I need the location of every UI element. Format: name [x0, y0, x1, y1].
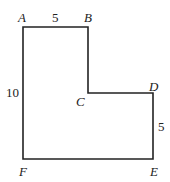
vertex-label-e: E: [149, 164, 158, 179]
l-shape-outline: [23, 27, 153, 159]
vertex-label-c: C: [76, 94, 85, 109]
vertex-label-f: F: [18, 164, 28, 179]
l-shape-diagram: A B C D E F 5 10 5: [0, 0, 170, 182]
vertex-label-d: D: [148, 79, 159, 94]
vertex-label-b: B: [84, 10, 92, 25]
vertex-label-a: A: [17, 10, 26, 25]
side-label-ab: 5: [52, 10, 59, 25]
side-label-af: 10: [6, 85, 19, 100]
side-label-de: 5: [158, 119, 165, 134]
